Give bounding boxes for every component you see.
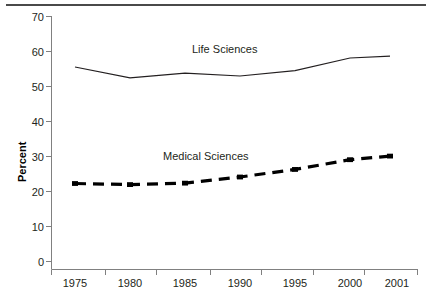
data-line-life-sciences xyxy=(75,56,390,78)
data-point-marker xyxy=(347,157,353,162)
data-markers-medical-sciences xyxy=(72,154,393,187)
data-point-marker xyxy=(182,181,188,186)
data-point-marker xyxy=(72,181,78,186)
chart-figure: Percent 70 60 50 40 30 20 10 0 1975 1980… xyxy=(0,0,428,300)
data-point-marker xyxy=(387,154,393,159)
data-point-marker xyxy=(237,175,243,180)
data-point-marker xyxy=(292,167,298,172)
plot-area xyxy=(0,0,428,300)
data-line-medical-sciences xyxy=(75,156,390,184)
data-point-marker xyxy=(127,182,133,187)
x-axis-ticks xyxy=(52,270,418,276)
y-axis-ticks xyxy=(46,17,52,262)
